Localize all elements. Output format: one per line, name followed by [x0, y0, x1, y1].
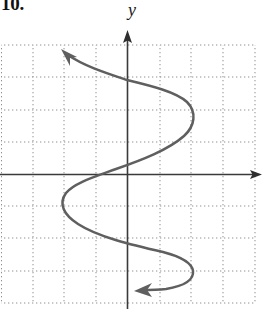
- graph-figure: 10. y: [0, 0, 269, 309]
- problem-number-label: 10.: [1, 0, 24, 13]
- y-axis: [123, 30, 132, 309]
- coordinate-plot: [0, 0, 269, 309]
- y-axis-label: y: [128, 1, 136, 19]
- curve-upper-arrow-icon: [61, 49, 77, 66]
